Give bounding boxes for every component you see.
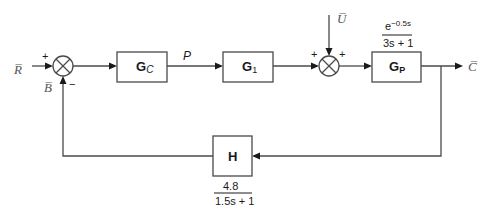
arrow-head <box>252 153 260 160</box>
sum1-minus-sign: − <box>69 78 75 90</box>
arrow-head <box>326 48 333 56</box>
feedback-tf-denominator: 1.5s + 1 <box>215 195 254 207</box>
feedback-label: H <box>228 149 237 164</box>
arrow-head <box>215 63 223 70</box>
sum2-plus-left: + <box>311 48 317 60</box>
process-tf-numerator: e−0.5s <box>385 19 411 32</box>
arrow-head <box>455 63 463 70</box>
feedback-tf-numerator: 4.8 <box>223 180 238 192</box>
feedback-line-left <box>63 80 213 156</box>
summing-junction-2 <box>319 56 339 76</box>
block-diagram: R̅ + − B̅ GC P G1 U̅ + + e−0.5s 3s + 1 G… <box>0 0 486 210</box>
output-label: C̅ <box>468 59 477 74</box>
measurement-label: B̅ <box>44 80 52 95</box>
arrow-head <box>60 76 67 84</box>
sum2-plus-right: + <box>339 48 345 60</box>
arrow-head <box>109 63 117 70</box>
disturbance-label: U̅ <box>337 11 348 26</box>
controller-output-label: P <box>183 49 191 63</box>
arrow-head <box>364 63 372 70</box>
setpoint-label: R̅ <box>13 62 22 77</box>
sum1-plus-sign: + <box>42 50 48 62</box>
arrow-head <box>45 63 53 70</box>
arrow-head <box>311 63 319 70</box>
summing-junction-1 <box>53 56 73 76</box>
process-tf-denominator: 3s + 1 <box>383 37 413 49</box>
